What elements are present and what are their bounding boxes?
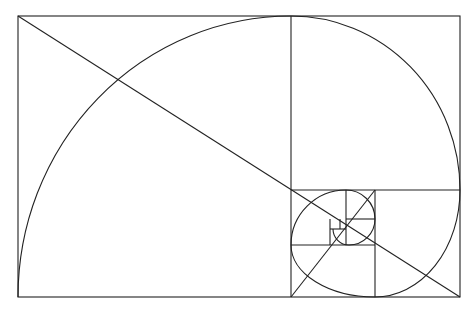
golden-spiral-diagram bbox=[0, 0, 473, 313]
spiral-arc-4 bbox=[291, 245, 375, 297]
secondary-diagonal bbox=[291, 190, 375, 297]
spiral-arc-6 bbox=[346, 190, 375, 219]
spiral-arc-3 bbox=[375, 190, 460, 297]
main-diagonal bbox=[18, 16, 460, 297]
spiral-arc-8 bbox=[333, 229, 349, 245]
spiral-arc-2 bbox=[291, 16, 460, 190]
diagram-svg bbox=[0, 0, 473, 313]
spiral-arc-1 bbox=[18, 16, 291, 297]
